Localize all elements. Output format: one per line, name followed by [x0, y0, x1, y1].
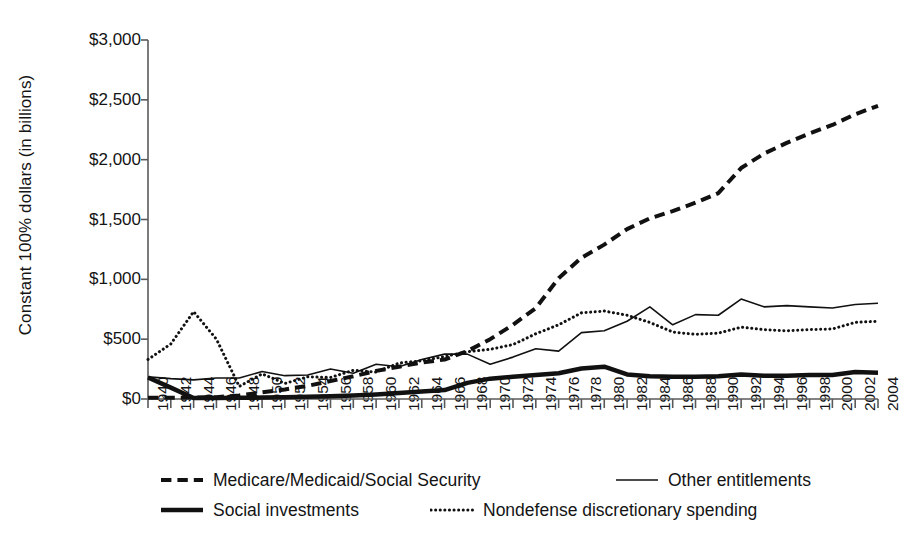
chart-legend: Medicare/Medicaid/Social SecurityOther e… — [0, 466, 906, 536]
legend-row: Medicare/Medicaid/Social SecurityOther e… — [0, 466, 906, 494]
legend-item-label: Medicare/Medicaid/Social Security — [213, 470, 480, 491]
legend-item[interactable]: Medicare/Medicaid/Social Security — [160, 466, 480, 494]
legend-item[interactable]: Nondefense discretionary spending — [430, 496, 757, 524]
plot-area — [0, 0, 906, 470]
legend-row: Social investmentsNondefense discretiona… — [0, 496, 906, 524]
series-line-1 — [148, 299, 878, 380]
legend-line-swatch-icon — [160, 503, 204, 517]
legend-line-swatch-icon — [430, 503, 474, 517]
series-line-2 — [148, 367, 878, 398]
legend-item[interactable]: Other entitlements — [615, 466, 811, 494]
legend-item-label: Other entitlements — [668, 470, 811, 491]
series-line-0 — [148, 106, 878, 398]
legend-item-label: Social investments — [213, 500, 359, 521]
legend-item[interactable]: Social investments — [160, 496, 359, 524]
legend-line-swatch-icon — [615, 473, 659, 487]
legend-item-label: Nondefense discretionary spending — [483, 500, 757, 521]
legend-line-swatch-icon — [160, 473, 204, 487]
chart-figure: Constant 100% dollars (in billions) $0$5… — [0, 0, 906, 559]
